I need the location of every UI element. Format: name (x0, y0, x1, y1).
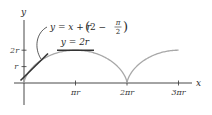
x-tick-label-pi-r: πr (70, 88, 81, 97)
svg-text:): ) (123, 19, 128, 34)
tangent-equation-label: y = x + r ( 2 − π 2 ) (49, 19, 128, 36)
x-axis-label: x (196, 78, 201, 88)
horizontal-tangent-label: y = 2r (60, 37, 90, 47)
pointer-arrow (37, 27, 47, 59)
x-tick-label-2pi-r: 2πr (119, 88, 135, 97)
x-tick-label-3pi-r: 3πr (171, 88, 186, 97)
y-tick-label-r: r (14, 62, 19, 71)
y-axis-label: y (20, 7, 27, 17)
cycloid-diagram: x y πr 2πr 3πr r 2r y = 2r y = x + r ( 2… (0, 0, 212, 115)
svg-text:2 −: 2 − (90, 22, 106, 32)
y-tick-label-2r: 2r (9, 46, 20, 55)
svg-text:π: π (115, 19, 121, 27)
svg-text:2: 2 (116, 28, 120, 36)
